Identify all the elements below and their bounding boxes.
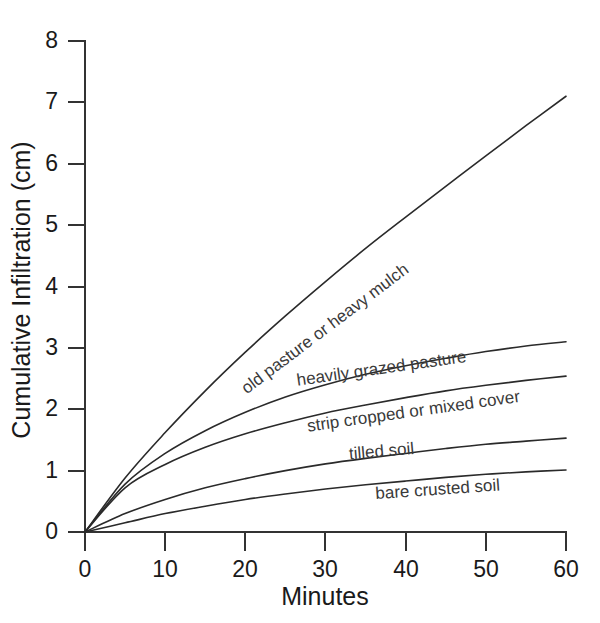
curve-label-tilled-soil: tilled soil [348,439,415,464]
data-curves [85,96,566,532]
y-axis-tick-labels: 8 7 6 5 4 3 2 1 0 [45,27,58,544]
infiltration-chart: 8 7 6 5 4 3 2 1 0 Cumulative Infiltratio… [0,0,600,623]
x-tick-label-10: 10 [152,556,178,582]
curve-label-strip-cropped-or-mixed-cover: strip cropped or mixed cover [306,387,521,436]
x-axis-tick-labels: 0 10 20 30 40 50 60 [79,556,579,582]
curve-old-pasture-or-heavy-mulch [85,96,566,532]
x-axis-ticks [85,532,566,551]
y-axis: 8 7 6 5 4 3 2 1 0 Cumulative Infiltratio… [7,27,85,544]
y-axis-title: Cumulative Infiltration (cm) [7,141,35,438]
curve-label-heavily-grazed-pasture: heavily grazed pasture [295,347,467,390]
y-tick-label-5: 5 [45,211,58,237]
chart-canvas: 8 7 6 5 4 3 2 1 0 Cumulative Infiltratio… [0,0,600,623]
x-tick-label-50: 50 [473,556,499,582]
x-axis: 0 10 20 30 40 50 60 Minutes [79,532,579,610]
y-tick-label-6: 6 [45,150,58,176]
x-tick-label-20: 20 [232,556,258,582]
y-tick-label-8: 8 [45,27,58,53]
y-tick-label-0: 0 [45,518,58,544]
y-tick-label-7: 7 [45,88,58,114]
x-tick-label-40: 40 [393,556,419,582]
y-tick-label-1: 1 [45,457,58,483]
y-axis-ticks [68,41,85,532]
curve-labels: old pasture or heavy mulch heavily graze… [238,260,522,503]
curve-label-bare-crusted-soil: bare crusted soil [375,475,501,503]
y-tick-label-4: 4 [45,273,58,299]
x-tick-label-0: 0 [79,556,92,582]
y-tick-label-2: 2 [45,395,58,421]
x-tick-label-30: 30 [312,556,338,582]
x-tick-label-60: 60 [553,556,579,582]
y-tick-label-3: 3 [45,334,58,360]
x-axis-title: Minutes [281,582,369,610]
